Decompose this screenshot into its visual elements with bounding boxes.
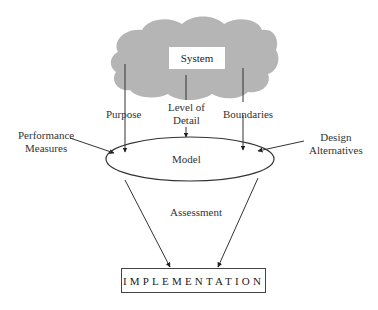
assessment-arrow-left [125,180,170,267]
performance-measures-label: Performance Measures [18,129,74,155]
boundaries-label: Boundaries [223,108,273,121]
assessment-label: Assessment [170,206,222,219]
assessment-arrow-right [218,178,258,267]
design-alternatives-line1: Design [309,131,363,144]
design-alternatives-label: Design Alternatives [309,131,363,157]
level-of-detail-line1: Level of [168,101,205,114]
design-alternatives-line2: Alternatives [309,144,363,157]
performance-measures-arrow [70,138,114,153]
system-label: System [169,47,225,69]
performance-measures-line1: Performance [18,129,74,142]
implementation-box: IMPLEMENTATION [121,268,266,293]
purpose-label: Purpose [106,108,141,121]
level-of-detail-line2: Detail [168,114,205,127]
performance-measures-line2: Measures [18,142,74,155]
model-label: Model [172,153,201,166]
level-of-detail-label: Level of Detail [168,101,205,127]
